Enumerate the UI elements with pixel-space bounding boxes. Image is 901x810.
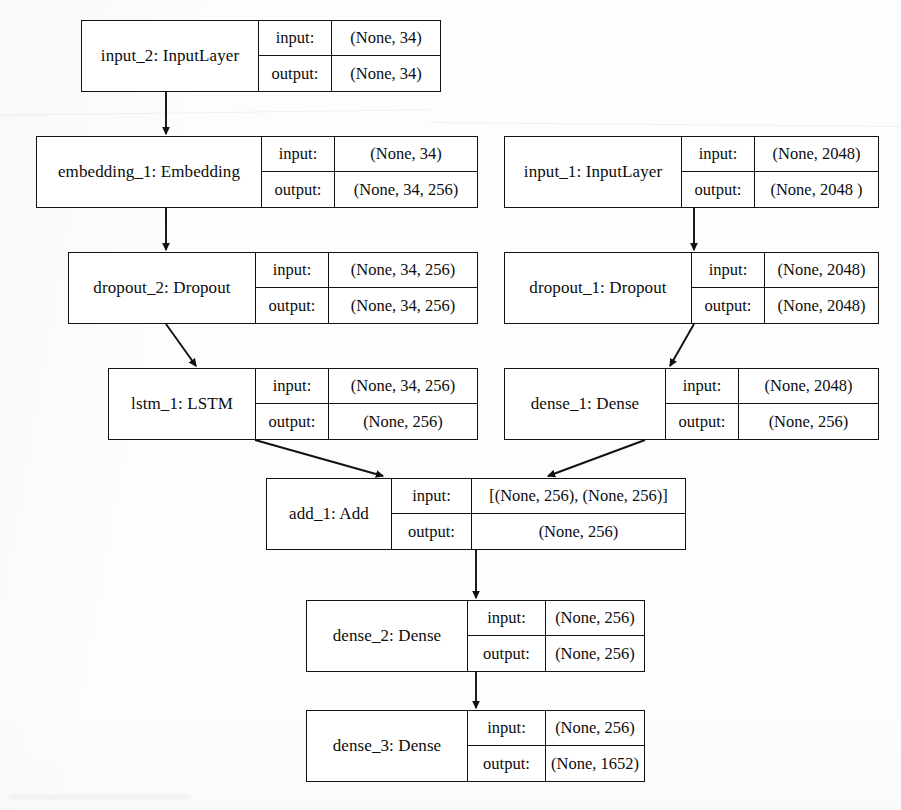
node-output-row: output: (None, 34, 256) bbox=[256, 288, 477, 323]
input-row-key: input: bbox=[468, 711, 546, 745]
output-row-key: output: bbox=[682, 172, 755, 207]
output-row-key: output: bbox=[666, 404, 739, 439]
input-shape-value: (None, 34, 256) bbox=[329, 253, 477, 287]
input-row-key: input: bbox=[666, 369, 739, 403]
input-shape-value: (None, 2048) bbox=[755, 137, 878, 171]
node-output-row: output: (None, 256) bbox=[666, 404, 878, 439]
node-input-row: input: (None, 34) bbox=[262, 137, 477, 172]
scan-artifact-line bbox=[430, 122, 900, 127]
node-output-row: output: (None, 34) bbox=[259, 56, 440, 91]
input-shape-value: [(None, 256), (None, 256)] bbox=[472, 479, 685, 513]
node-input-row: input: (None, 34) bbox=[259, 21, 440, 56]
output-shape-value: (None, 34, 256) bbox=[335, 172, 477, 207]
node-io-table: input: (None, 34, 256) output: (None, 25… bbox=[255, 369, 477, 439]
output-row-key: output: bbox=[262, 172, 335, 207]
input-shape-value: (None, 34) bbox=[332, 21, 440, 55]
node-lstm_1[interactable]: lstm_1: LSTM input: (None, 34, 256) outp… bbox=[108, 368, 478, 440]
node-output-row: output: (None, 256) bbox=[392, 514, 685, 549]
node-io-table: input: (None, 34, 256) output: (None, 34… bbox=[255, 253, 477, 323]
node-dropout_2[interactable]: dropout_2: Dropout input: (None, 34, 256… bbox=[68, 252, 478, 324]
input-shape-value: (None, 256) bbox=[546, 601, 644, 635]
output-row-key: output: bbox=[256, 404, 329, 439]
scan-artifact-line bbox=[0, 109, 430, 115]
node-input-row: input: (None, 34, 256) bbox=[256, 253, 477, 288]
edge-dense_1-to-add_1 bbox=[548, 440, 645, 476]
input-row-key: input: bbox=[256, 253, 329, 287]
input-row-key: input: bbox=[262, 137, 335, 171]
diagram-canvas: input_2: InputLayer input: (None, 34) ou… bbox=[0, 0, 901, 810]
input-shape-value: (None, 34) bbox=[335, 137, 477, 171]
output-shape-value: (None, 256) bbox=[546, 636, 644, 671]
node-label: input_2: InputLayer bbox=[82, 21, 258, 91]
edge-lstm_1-to-add_1 bbox=[255, 440, 383, 476]
node-label: input_1: InputLayer bbox=[505, 137, 681, 207]
input-shape-value: (None, 34, 256) bbox=[329, 369, 477, 403]
output-row-key: output: bbox=[692, 288, 765, 323]
node-input-row: input: (None, 256) bbox=[468, 601, 644, 636]
node-dense_2[interactable]: dense_2: Dense input: (None, 256) output… bbox=[306, 600, 645, 672]
node-dropout_1[interactable]: dropout_1: Dropout input: (None, 2048) o… bbox=[504, 252, 879, 324]
node-input-row: input: (None, 2048) bbox=[666, 369, 878, 404]
output-shape-value: (None, 256) bbox=[739, 404, 878, 439]
node-input-row: input: (None, 256) bbox=[468, 711, 644, 746]
output-shape-value: (None, 2048 ) bbox=[755, 172, 878, 207]
edge-dropout_2-to-lstm_1 bbox=[166, 324, 196, 366]
input-row-key: input: bbox=[468, 601, 546, 635]
input-row-key: input: bbox=[692, 253, 765, 287]
node-dense_1[interactable]: dense_1: Dense input: (None, 2048) outpu… bbox=[504, 368, 879, 440]
output-shape-value: (None, 34) bbox=[332, 56, 440, 91]
node-io-table: input: [(None, 256), (None, 256)] output… bbox=[391, 479, 685, 549]
node-output-row: output: (None, 256) bbox=[468, 636, 644, 671]
output-row-key: output: bbox=[259, 56, 332, 91]
node-add_1[interactable]: add_1: Add input: [(None, 256), (None, 2… bbox=[266, 478, 686, 550]
output-shape-value: (None, 1652) bbox=[546, 746, 644, 781]
node-dense_3[interactable]: dense_3: Dense input: (None, 256) output… bbox=[306, 710, 645, 782]
node-label: dense_3: Dense bbox=[307, 711, 467, 781]
node-io-table: input: (None, 256) output: (None, 1652) bbox=[467, 711, 644, 781]
input-shape-value: (None, 2048) bbox=[765, 253, 878, 287]
input-row-key: input: bbox=[682, 137, 755, 171]
node-output-row: output: (None, 2048) bbox=[692, 288, 878, 323]
node-io-table: input: (None, 2048) output: (None, 2048) bbox=[691, 253, 878, 323]
node-io-table: input: (None, 34) output: (None, 34) bbox=[258, 21, 440, 91]
node-embedding_1[interactable]: embedding_1: Embedding input: (None, 34)… bbox=[36, 136, 478, 208]
edge-dropout_1-to-dense_1 bbox=[670, 324, 694, 366]
output-row-key: output: bbox=[256, 288, 329, 323]
node-label: dense_1: Dense bbox=[505, 369, 665, 439]
output-shape-value: (None, 34, 256) bbox=[329, 288, 477, 323]
node-input-row: input: (None, 34, 256) bbox=[256, 369, 477, 404]
output-shape-value: (None, 256) bbox=[329, 404, 477, 439]
node-io-table: input: (None, 256) output: (None, 256) bbox=[467, 601, 644, 671]
output-shape-value: (None, 256) bbox=[472, 514, 685, 549]
node-output-row: output: (None, 256) bbox=[256, 404, 477, 439]
node-io-table: input: (None, 2048) output: (None, 256) bbox=[665, 369, 878, 439]
node-label: dropout_2: Dropout bbox=[69, 253, 255, 323]
output-shape-value: (None, 2048) bbox=[765, 288, 878, 323]
node-input-row: input: [(None, 256), (None, 256)] bbox=[392, 479, 685, 514]
node-label: add_1: Add bbox=[267, 479, 391, 549]
node-label: lstm_1: LSTM bbox=[109, 369, 255, 439]
node-output-row: output: (None, 2048 ) bbox=[682, 172, 878, 207]
node-label: dropout_1: Dropout bbox=[505, 253, 691, 323]
node-label: dense_2: Dense bbox=[307, 601, 467, 671]
node-input_1[interactable]: input_1: InputLayer input: (None, 2048) … bbox=[504, 136, 879, 208]
node-input_2[interactable]: input_2: InputLayer input: (None, 34) ou… bbox=[81, 20, 441, 92]
node-output-row: output: (None, 1652) bbox=[468, 746, 644, 781]
scan-artifact-smudge bbox=[10, 795, 190, 800]
output-row-key: output: bbox=[392, 514, 472, 549]
input-row-key: input: bbox=[259, 21, 332, 55]
input-shape-value: (None, 256) bbox=[546, 711, 644, 745]
node-io-table: input: (None, 34) output: (None, 34, 256… bbox=[261, 137, 477, 207]
output-row-key: output: bbox=[468, 746, 546, 781]
input-row-key: input: bbox=[392, 479, 472, 513]
input-row-key: input: bbox=[256, 369, 329, 403]
input-shape-value: (None, 2048) bbox=[739, 369, 878, 403]
output-row-key: output: bbox=[468, 636, 546, 671]
node-input-row: input: (None, 2048) bbox=[682, 137, 878, 172]
node-label: embedding_1: Embedding bbox=[37, 137, 261, 207]
node-output-row: output: (None, 34, 256) bbox=[262, 172, 477, 207]
node-input-row: input: (None, 2048) bbox=[692, 253, 878, 288]
node-io-table: input: (None, 2048) output: (None, 2048 … bbox=[681, 137, 878, 207]
